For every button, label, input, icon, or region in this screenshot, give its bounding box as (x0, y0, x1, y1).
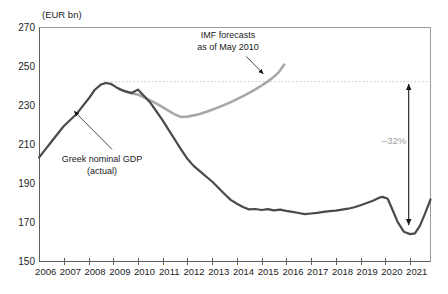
x-tick-mark (286, 258, 287, 265)
x-tick-mark (336, 258, 337, 265)
x-tick-mark (64, 258, 65, 265)
x-tick-mark (361, 258, 362, 265)
forecast-annotation-line2: as of May 2010 (197, 42, 259, 54)
x-tick-label: 2011 (159, 266, 179, 277)
y-tick-label: 170 (0, 217, 35, 228)
x-tick-label: 2021 (406, 266, 427, 277)
x-tick-mark (138, 258, 139, 265)
x-tick-label: 2013 (208, 266, 229, 277)
delta-label: –32% (382, 135, 406, 146)
x-tick-mark (163, 258, 164, 265)
x-tick-mark (89, 258, 90, 265)
y-tick-label: 210 (0, 139, 35, 150)
forecast-annotation-line1: IMF forecasts (197, 30, 259, 42)
x-tick-mark (113, 258, 114, 265)
x-tick-label: 2007 (60, 266, 81, 277)
x-tick-mark (262, 258, 263, 265)
y-tick-label: 150 (0, 256, 35, 267)
y-tick-label: 270 (0, 22, 35, 33)
x-tick-mark (410, 258, 411, 265)
x-tick-label: 2018 (332, 266, 353, 277)
x-tick-label: 2006 (35, 266, 56, 277)
actual-annotation: Greek nominal GDP (actual) (62, 154, 143, 177)
x-tick-label: 2010 (134, 266, 155, 277)
x-tick-label: 2012 (184, 266, 205, 277)
x-tick-label: 2015 (258, 266, 279, 277)
x-tick-label: 2019 (357, 266, 378, 277)
x-tick-mark (385, 258, 386, 265)
x-tick-label: 2009 (109, 266, 130, 277)
actual-annotation-line1: Greek nominal GDP (62, 154, 143, 166)
plot-area (39, 27, 431, 262)
x-tick-mark (311, 258, 312, 265)
x-tick-label: 2016 (282, 266, 303, 277)
axis-unit-label: (EUR bn) (42, 9, 82, 20)
x-tick-mark (237, 258, 238, 265)
x-tick-label: 2017 (307, 266, 328, 277)
y-tick-label: 250 (0, 61, 35, 72)
forecast-annotation: IMF forecasts as of May 2010 (197, 30, 259, 53)
x-tick-label: 2014 (233, 266, 254, 277)
x-tick-mark (187, 258, 188, 265)
actual-annotation-line2: (actual) (62, 166, 143, 178)
x-tick-label: 2020 (381, 266, 402, 277)
chart: (EUR bn) 270250230210190170150 200620072… (0, 0, 448, 294)
y-tick-label: 230 (0, 100, 35, 111)
x-tick-label: 2008 (85, 266, 106, 277)
x-tick-mark (212, 258, 213, 265)
y-tick-label: 190 (0, 178, 35, 189)
